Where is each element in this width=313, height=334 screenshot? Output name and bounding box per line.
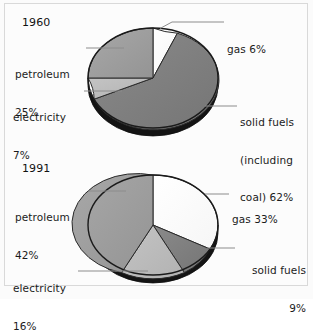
pie-1991 — [72, 174, 218, 283]
chart-1991-year-label: 1991 — [22, 163, 50, 176]
chart-1991-electricity-line2: 16% — [13, 320, 66, 333]
chart-1960-label-gas: gas 6% — [227, 18, 266, 81]
chart-1960-year-label: 1960 — [22, 17, 50, 30]
chart-1991-label-solid-fuels: solid fuels 9% — [238, 239, 306, 334]
pie-1960 — [88, 28, 219, 136]
chart-1991-electricity-line1: electricity — [13, 282, 66, 295]
chart-1991-gas-line1: gas 33% — [232, 213, 278, 226]
chart-1991-solid-line2: 9% — [238, 302, 306, 315]
pie-1960-slice-petroleum — [88, 28, 153, 78]
chart-1991-petroleum-line1: petroleum — [15, 211, 70, 224]
chart-1960-electricity-line1: electricity — [13, 111, 66, 124]
chart-1960-electricity-line2: 7% — [13, 149, 66, 162]
chart-1960-solid-line1: solid fuels — [240, 116, 294, 129]
chart-1960-gas-line1: gas 6% — [227, 43, 266, 56]
chart-1960-solid-line2: (including — [240, 154, 294, 167]
chart-1991-solid-line1: solid fuels — [238, 264, 306, 277]
leader-gas-1960 — [160, 22, 224, 29]
chart-1960-petroleum-line1: petroleum — [15, 68, 70, 81]
chart-1991-label-electricity: electricity 16% — [13, 257, 66, 334]
